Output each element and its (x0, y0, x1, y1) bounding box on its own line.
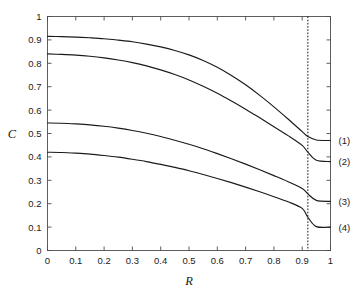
y-tick-label-1: 0.1 (28, 222, 41, 233)
y-tick-label-9: 0.9 (28, 34, 41, 45)
x-tick-label-4: 0.4 (154, 255, 167, 266)
x-tick-label-8: 0.8 (267, 255, 280, 266)
y-tick-label-8: 0.8 (28, 58, 41, 69)
x-tick-label-0: 0 (45, 255, 50, 266)
x-tick-label-6: 0.6 (211, 255, 224, 266)
curve-label-4: (4) (339, 222, 351, 233)
x-tick-label-1: 0.1 (69, 255, 82, 266)
curve-label-3: (3) (339, 196, 351, 207)
y-tick-label-3: 0.3 (28, 175, 41, 186)
y-tick-label-2: 0.2 (28, 198, 41, 209)
x-tick-label-5: 0.5 (182, 255, 195, 266)
x-tick-label-7: 0.7 (239, 255, 252, 266)
plot-box (48, 17, 331, 251)
y-tick-label-10: 1 (36, 11, 41, 22)
y-axis-title: C (8, 127, 17, 141)
x-tick-label-2: 0.2 (97, 255, 110, 266)
x-tick-label-3: 0.3 (126, 255, 139, 266)
y-tick-label-5: 0.5 (28, 128, 41, 139)
x-tick-label-10: 1 (328, 255, 333, 266)
plot-area (48, 17, 331, 251)
curve-label-1: (1) (339, 135, 351, 146)
y-tick-label-0: 0 (36, 245, 41, 256)
x-axis-title: R (184, 274, 193, 288)
chart-figure: 00.10.20.30.40.50.60.70.80.91 00.10.20.3… (0, 0, 361, 291)
x-tick-label-9: 0.9 (296, 255, 309, 266)
y-tick-label-4: 0.4 (28, 151, 41, 162)
y-tick-label-6: 0.6 (28, 105, 41, 116)
y-tick-label-7: 0.7 (28, 81, 41, 92)
curve-label-2: (2) (339, 156, 351, 167)
